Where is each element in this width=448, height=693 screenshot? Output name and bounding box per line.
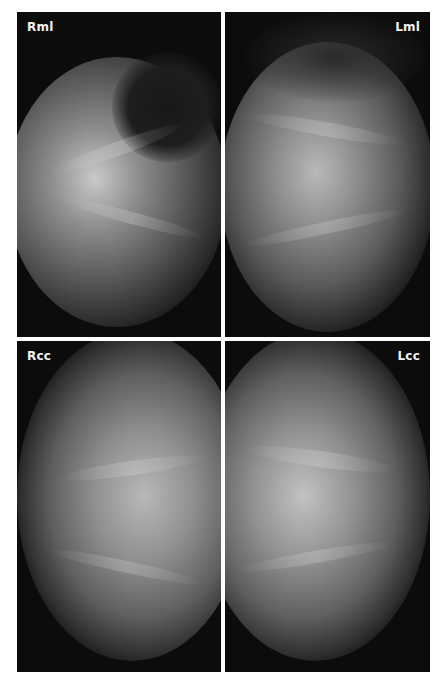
view-label-lml: Lml: [395, 20, 420, 34]
panel-left-craniocaudal: Lcc: [225, 341, 430, 672]
mammogram-grid: Rml Lml Rcc Lcc: [17, 12, 430, 672]
breast-tissue-image: [17, 341, 221, 661]
breast-tissue-image: [225, 341, 430, 661]
view-label-lcc: Lcc: [398, 349, 420, 363]
panel-right-craniocaudal: Rcc: [17, 341, 221, 672]
view-label-rml: Rml: [27, 20, 53, 34]
panel-left-mediolateral: Lml: [225, 12, 430, 337]
panel-right-mediolateral: Rml: [17, 12, 221, 337]
view-label-rcc: Rcc: [27, 349, 51, 363]
